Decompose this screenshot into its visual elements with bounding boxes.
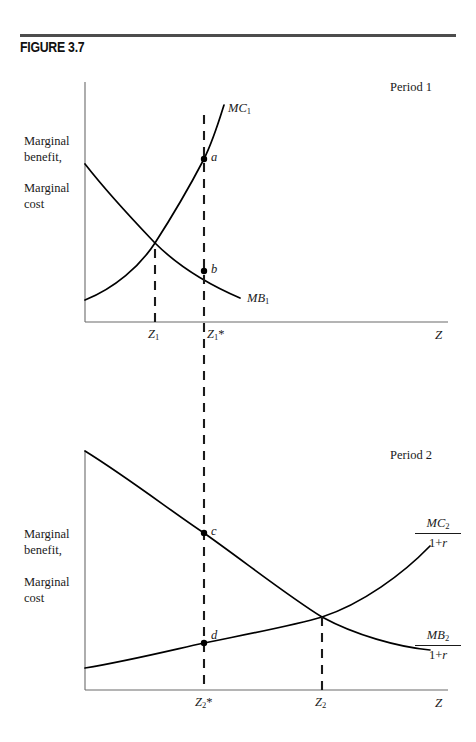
chart1-xtick-z1: Z1 xyxy=(148,327,159,342)
point-c-label: c xyxy=(211,524,217,539)
curve-label-mc1-base: MC xyxy=(228,101,247,115)
point-d-label: d xyxy=(211,628,217,643)
curve-label-mb2-base: MB xyxy=(427,628,445,642)
chart2-y-axis-label: Marginal benefit, xyxy=(24,526,70,558)
chart1-y-axis-label-2: Marginal cost xyxy=(24,180,70,212)
chart2-xtick-z2star-base: Z xyxy=(195,695,202,709)
curve-label-mb1: MB1 xyxy=(247,291,269,306)
chart2-y-label-line2: benefit, xyxy=(24,542,70,558)
chart1-y-label-line2: benefit, xyxy=(24,149,70,165)
curve-label-mb2-discounted: MB2 1+r xyxy=(415,628,461,663)
curve-label-mc2-den-r: r xyxy=(442,536,447,550)
curve-label-mc2-base: MC xyxy=(427,516,446,530)
curve-mc2-discounted xyxy=(85,546,430,668)
point-a-dot xyxy=(201,156,207,162)
curve-label-mc1: MC1 xyxy=(228,101,251,116)
point-b-label: b xyxy=(211,262,217,277)
chart1-xtick-z1star-asterisk: * xyxy=(218,327,224,341)
chart2-xtick-z2-base: Z xyxy=(315,695,322,709)
curve-label-mc2-discounted: MC2 1+r xyxy=(415,516,461,551)
chart2-xtick-z2star: Z2* xyxy=(195,695,212,710)
chart1-y-axis-label: Marginal benefit, xyxy=(24,133,70,165)
curve-label-mb1-sub: 1 xyxy=(265,296,269,306)
point-a-label: a xyxy=(211,150,217,165)
chart1-xtick-z1star-base: Z xyxy=(207,327,214,341)
chart1-xtick-z1-sub: 1 xyxy=(155,332,159,342)
curve-mb2-discounted xyxy=(85,451,430,650)
chart2-xtick-z2-sub: 2 xyxy=(322,700,326,710)
curve-label-mb2-den-text: 1+ xyxy=(429,648,442,662)
chart1-x-axis-label: Z xyxy=(435,327,442,343)
figure-container: FIGURE 3.7 xyxy=(0,0,476,742)
point-c-dot xyxy=(201,530,207,536)
chart1-xtick-z1-base: Z xyxy=(148,327,155,341)
curve-label-mc1-sub: 1 xyxy=(247,106,251,116)
curve-label-mb2-denominator: 1+r xyxy=(415,647,461,663)
chart2-x-axis-label: Z xyxy=(435,695,442,711)
chart2-y-label-line3: Marginal xyxy=(24,574,70,590)
chart1-y-label-line4: cost xyxy=(24,196,70,212)
point-d-dot xyxy=(201,640,207,646)
chart2-y-label-line1: Marginal xyxy=(24,526,70,542)
curve-label-mc2-numerator: MC2 xyxy=(415,516,461,532)
chart1-xtick-z1star: Z1* xyxy=(207,327,224,342)
point-b-dot xyxy=(201,268,207,274)
chart1-y-label-line3: Marginal xyxy=(24,180,70,196)
curve-label-mb1-base: MB xyxy=(247,291,265,305)
chart-period-1 xyxy=(85,82,448,690)
curve-label-mc2-sub: 2 xyxy=(445,521,449,531)
chart2-xtick-z2: Z2 xyxy=(315,695,326,710)
curve-label-mb2-den-r: r xyxy=(442,648,447,662)
chart1-period-title: Period 1 xyxy=(390,80,432,95)
chart1-y-label-line1: Marginal xyxy=(24,133,70,149)
chart2-period-title: Period 2 xyxy=(390,448,432,463)
chart-period-2 xyxy=(85,451,448,690)
curve-label-mb2-numerator: MB2 xyxy=(415,628,461,644)
curve-label-mc2-den-text: 1+ xyxy=(429,536,442,550)
curve-label-mc2-denominator: 1+r xyxy=(415,535,461,551)
chart2-xtick-z2star-asterisk: * xyxy=(206,695,212,709)
chart2-y-axis-label-2: Marginal cost xyxy=(24,574,70,606)
curve-label-mb2-sub: 2 xyxy=(445,633,449,643)
chart2-y-label-line4: cost xyxy=(24,590,70,606)
